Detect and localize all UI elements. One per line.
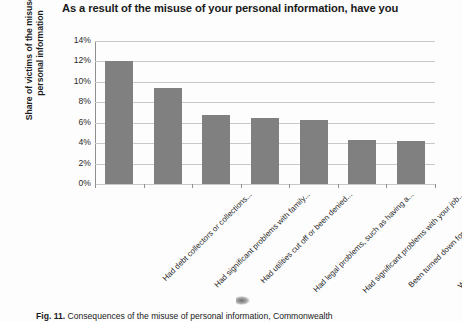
- figure-number: Fig. 11.: [36, 311, 65, 321]
- y-tick-label: 12%: [51, 55, 91, 65]
- y-axis-title-line1: Share of victims of the misuse of: [24, 0, 34, 120]
- y-tick-label: 14%: [51, 35, 91, 45]
- x-category-label: Had debt collectors or collections...: [161, 190, 254, 283]
- y-tick-label: 2%: [51, 158, 91, 168]
- y-tick-label: 10%: [51, 76, 91, 86]
- figure-caption-text: Consequences of the misuse of personal i…: [68, 311, 333, 321]
- bar: [300, 120, 328, 184]
- y-tick-label: 6%: [51, 117, 91, 127]
- x-axis-category-labels: Had debt collectors or collections...Had…: [0, 188, 462, 293]
- y-axis-title-line2: personal information: [35, 10, 45, 95]
- chart-title: As a result of the misuse of your person…: [62, 2, 458, 14]
- y-axis-title: Share of victims of the misuse of person…: [15, 0, 55, 138]
- bar: [154, 88, 182, 184]
- bars-group: [95, 41, 435, 184]
- y-tick-label: 8%: [51, 96, 91, 106]
- bar: [397, 141, 425, 184]
- y-axis-tick-labels: 14%12%10%8%6%4%2%0%: [51, 41, 91, 184]
- y-tick-label: 4%: [51, 137, 91, 147]
- figure-caption: Fig. 11. Consequences of the misuse of p…: [36, 311, 456, 321]
- bar: [251, 118, 279, 184]
- x-category-label: Had legal problems, such as having a...: [311, 190, 415, 294]
- y-tick-label: 0%: [51, 178, 91, 188]
- bar: [348, 140, 376, 184]
- bar: [202, 115, 230, 184]
- bar: [105, 61, 133, 184]
- gridline: [95, 184, 435, 185]
- page-smudge: [236, 296, 250, 305]
- figure-container: As a result of the misuse of your person…: [0, 0, 462, 322]
